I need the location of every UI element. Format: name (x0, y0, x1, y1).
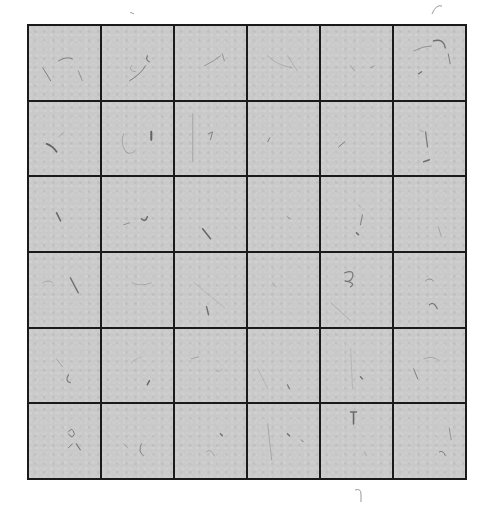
fiber-specks (102, 329, 173, 403)
grid-cell (102, 177, 173, 251)
grid-cell (248, 26, 319, 100)
grid-cell (175, 329, 246, 403)
grid-cell (29, 102, 100, 176)
grid-cell (321, 177, 392, 251)
fiber-specks (394, 253, 465, 327)
fiber-specks (175, 26, 246, 100)
fiber-specks (102, 26, 173, 100)
grid-cell (321, 253, 392, 327)
grid-cell (321, 404, 392, 478)
grid-cell (29, 177, 100, 251)
grid-cell (175, 102, 246, 176)
grid-cell (321, 102, 392, 176)
grid-cell (102, 329, 173, 403)
grid-cell (394, 329, 465, 403)
grid-cell (175, 404, 246, 478)
fiber-specks (102, 253, 173, 327)
fiber-specks (394, 177, 465, 251)
grid-cell (175, 26, 246, 100)
fiber-specks (321, 177, 392, 251)
fiber-specks (29, 329, 100, 403)
fiber-specks (394, 329, 465, 403)
fiber-specks (29, 26, 100, 100)
grid-cell (29, 329, 100, 403)
grid-cell (394, 404, 465, 478)
grid-cell (102, 253, 173, 327)
fiber-specks (29, 177, 100, 251)
fiber-specks (248, 177, 319, 251)
fiber-specks (102, 404, 173, 478)
fiber-specks (321, 26, 392, 100)
fiber-specks (29, 253, 100, 327)
grid-cell (321, 329, 392, 403)
grid-cell (29, 253, 100, 327)
grid-cell (29, 404, 100, 478)
grid-cell (248, 102, 319, 176)
fiber-specks (102, 177, 173, 251)
grid-cell (102, 26, 173, 100)
grid-cell (394, 177, 465, 251)
top-right-pencil-mark (430, 2, 450, 20)
fiber-specks (102, 102, 173, 176)
grid-cell (248, 329, 319, 403)
fiber-specks (175, 177, 246, 251)
grid-cell (175, 177, 246, 251)
fiber-specks (175, 404, 246, 478)
specimen-grid (27, 24, 467, 480)
fiber-specks (29, 404, 100, 478)
grid-cell (321, 26, 392, 100)
fiber-specks (248, 329, 319, 403)
grid-cell (394, 253, 465, 327)
grid-cell (248, 253, 319, 327)
fiber-specks (321, 404, 392, 478)
fiber-specks (248, 404, 319, 478)
fiber-specks (248, 253, 319, 327)
fiber-specks (394, 102, 465, 176)
grid-cell (102, 102, 173, 176)
top-left-speck (130, 12, 150, 30)
grid-cell (394, 102, 465, 176)
fiber-specks (175, 329, 246, 403)
fiber-specks (29, 102, 100, 176)
fiber-specks (321, 329, 392, 403)
fiber-specks (394, 26, 465, 100)
fiber-specks (394, 404, 465, 478)
grid-cell (175, 253, 246, 327)
fiber-specks (248, 26, 319, 100)
grid-cell (248, 404, 319, 478)
fiber-specks (248, 102, 319, 176)
fiber-specks (175, 253, 246, 327)
grid-cell (394, 26, 465, 100)
fiber-specks (175, 102, 246, 176)
fiber-specks (321, 253, 392, 327)
grid-cell (248, 177, 319, 251)
grid-cell (29, 26, 100, 100)
grid-cell (102, 404, 173, 478)
fiber-specks (321, 102, 392, 176)
bottom-center-mark (355, 488, 375, 506)
